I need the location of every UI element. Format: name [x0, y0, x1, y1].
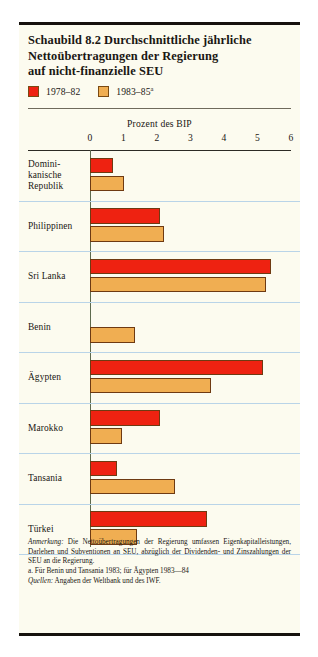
top-rule	[19, 22, 300, 25]
legend-label-1978-82: 1978–82	[46, 86, 80, 97]
chart-row: Domini-kanischeRepublik	[19, 151, 300, 202]
x-tick-label-2: 2	[155, 132, 160, 143]
note-quellen: Quellen: Angaben der Weltbank und des IW…	[28, 577, 291, 587]
note-anmerkung: Anmerkung: Die Nettoübertragungen der Re…	[28, 538, 291, 567]
title-line-1: Schaubild 8.2 Durchschnittliche jährlich…	[28, 33, 294, 49]
chart-row: Marokko	[19, 404, 300, 455]
note-quellen-text: Angaben der Weltbank und des IWF.	[53, 577, 161, 585]
note-footnote-a-text: a. Für Benin und Tansania 1983; für Ägyp…	[28, 567, 189, 575]
bar-series-1	[90, 410, 160, 426]
x-tick-label-4: 4	[222, 132, 227, 143]
bar-series-1	[90, 259, 271, 275]
legend-item-1978-82: 1978–82	[28, 86, 80, 97]
x-tick-label-6: 6	[289, 132, 294, 143]
x-tick-label-0: 0	[88, 132, 93, 143]
bar-group	[19, 454, 300, 504]
chart-legend: 1978–82 1983–85a	[28, 85, 172, 97]
bar-series-2	[90, 277, 266, 293]
bar-series-1	[90, 360, 263, 376]
chart-figure: Schaubild 8.2 Durchschnittliche jährlich…	[19, 22, 300, 636]
note-footnote-a: a. Für Benin und Tansania 1983; für Ägyp…	[28, 567, 291, 577]
legend-swatch-icon-orange	[98, 86, 109, 97]
bar-group	[19, 252, 300, 302]
bar-group	[19, 151, 300, 201]
bar-series-2	[90, 226, 164, 242]
bar-series-2	[90, 378, 211, 394]
figure-notes: Anmerkung: Die Nettoübertragungen der Re…	[28, 538, 291, 587]
title-line-3: auf nicht-finanzielle SEU	[28, 64, 294, 80]
x-tick-label-3: 3	[188, 132, 193, 143]
chart-row: Benin	[19, 303, 300, 354]
note-anmerkung-lead: Anmerkung:	[28, 538, 64, 546]
bar-group	[19, 202, 300, 252]
chart-row: Philippinen	[19, 202, 300, 253]
note-anmerkung-text: Die Nettoübertragungen der Regierung umf…	[28, 538, 291, 565]
bar-series-1	[90, 511, 207, 527]
bottom-rule	[19, 633, 300, 636]
x-tick-label-5: 5	[255, 132, 260, 143]
plot-area: 0123456 Domini-kanischeRepublikPhilippin…	[19, 132, 300, 530]
chart-row: Sri Lanka	[19, 252, 300, 303]
bar-series-2	[90, 176, 124, 192]
legend-swatch-icon-red	[28, 86, 39, 97]
figure-title: Schaubild 8.2 Durchschnittliche jährlich…	[28, 33, 294, 80]
legend-rule	[28, 108, 291, 109]
bar-series-2	[90, 428, 122, 444]
chart-rows: Domini-kanischeRepublikPhilippinenSri La…	[19, 151, 300, 555]
note-quellen-lead: Quellen:	[28, 577, 53, 585]
bar-series-1	[90, 158, 113, 174]
bar-group	[19, 353, 300, 403]
bar-group	[19, 303, 300, 353]
bar-series-2	[90, 327, 135, 343]
chart-row: Ägypten	[19, 353, 300, 404]
legend-item-1983-85: 1983–85a	[98, 85, 153, 97]
chart-row: Tansania	[19, 454, 300, 505]
legend-label-1983-85: 1983–85a	[116, 85, 153, 97]
bar-group	[19, 404, 300, 454]
x-tick-label-1: 1	[121, 132, 126, 143]
x-axis-title: Prozent des BIP	[19, 118, 300, 129]
bar-series-1	[90, 208, 160, 224]
bar-series-2	[90, 479, 175, 495]
title-line-2: Nettoübertragungen der Regierung	[28, 49, 294, 65]
legend-label-1983-85-text: 1983–85	[116, 86, 150, 97]
bar-series-1	[90, 461, 117, 477]
x-axis-tick-labels: 0123456	[19, 132, 300, 148]
legend-footnote-marker: a	[151, 85, 154, 92]
